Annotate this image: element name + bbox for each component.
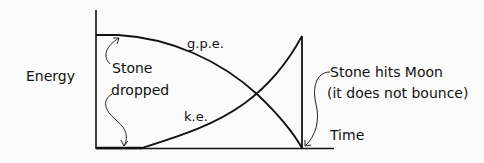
arrowhead-down [121,140,128,146]
impact-label-line2: (it does not bounce) [327,85,468,101]
y-axis-label: Energy [26,68,75,84]
x-axis-label: Time [330,127,364,143]
stone-dropped-arrow-down [106,94,127,146]
gpe-label: g.p.e. [187,37,224,52]
impact-label-line1: Stone hits Moon [330,64,443,80]
stone-dropped-label-line2: dropped [111,82,169,98]
impact-arrow [305,72,330,146]
ke-label: k.e. [184,110,208,125]
stone-dropped-label-line1: Stone [112,60,152,76]
